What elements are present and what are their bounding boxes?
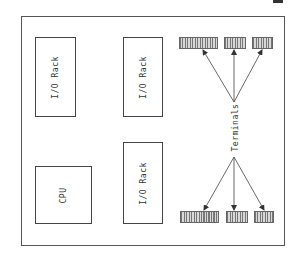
arrow-top-3-icon — [234, 50, 262, 102]
diagram-canvas: I/O Rack I/O Rack I/O Rack CPU — [0, 0, 291, 256]
arrows-bottom — [204, 157, 264, 210]
arrow-top-1-icon — [203, 50, 234, 102]
terminals-label: Terminals — [231, 106, 240, 152]
arrows-layer — [0, 0, 291, 256]
arrows-top — [203, 50, 262, 102]
arrow-bottom-1-icon — [204, 157, 234, 210]
arrow-bottom-3-icon — [234, 157, 264, 210]
